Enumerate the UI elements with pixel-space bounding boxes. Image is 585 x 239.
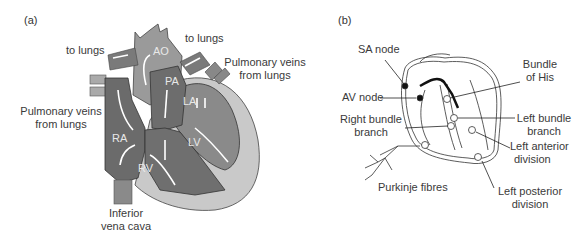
label-to-lungs-left: to lungs — [66, 44, 105, 57]
panel-b-tag: (b) — [338, 14, 351, 26]
label-line: Pulmonary veins — [20, 105, 102, 118]
label-inferior-vena-cava: Inferior vena cava — [96, 207, 156, 233]
label-bundle-of-his: Bundle of His — [510, 58, 570, 84]
label-line: division — [490, 198, 570, 211]
chamber-lv: LV — [188, 136, 201, 149]
label-sa-node: SA node — [358, 43, 400, 56]
label-line: Left posterior — [490, 185, 570, 198]
chamber-rv: RV — [138, 162, 153, 175]
label-line: branch — [336, 126, 406, 139]
label-pulmonary-veins-left: Pulmonary veins from lungs — [20, 105, 102, 131]
label-line: Inferior — [96, 207, 156, 220]
chamber-la: LA — [183, 95, 196, 108]
label-line: from lungs — [224, 69, 306, 82]
label-line: of His — [510, 71, 570, 84]
chamber-pa: PA — [165, 75, 179, 88]
label-left-posterior-division: Left posterior division — [490, 185, 570, 211]
label-purkinje-fibres: Purkinje fibres — [378, 181, 448, 194]
chamber-ra: RA — [112, 132, 127, 145]
label-line: Left bundle — [508, 112, 580, 125]
heart-anatomy-illustration — [90, 24, 259, 210]
panel-a-tag: (a) — [24, 14, 37, 26]
chamber-ao: AO — [153, 45, 169, 58]
label-av-node: AV node — [342, 91, 383, 104]
label-left-anterior-division: Left anterior division — [510, 140, 569, 166]
label-right-bundle-branch: Right bundle branch — [336, 113, 406, 139]
label-line: Pulmonary veins — [224, 56, 306, 69]
label-line: vena cava — [96, 220, 156, 233]
label-pulmonary-veins-right: Pulmonary veins from lungs — [224, 56, 306, 82]
label-line: branch — [508, 125, 580, 138]
label-line: Left anterior — [510, 140, 569, 153]
label-line: Bundle — [510, 58, 570, 71]
label-to-lungs-right: to lungs — [185, 32, 224, 45]
label-left-bundle-branch: Left bundle branch — [508, 112, 580, 138]
label-line: division — [510, 153, 569, 166]
label-line: from lungs — [20, 118, 102, 131]
label-line: Right bundle — [336, 113, 406, 126]
